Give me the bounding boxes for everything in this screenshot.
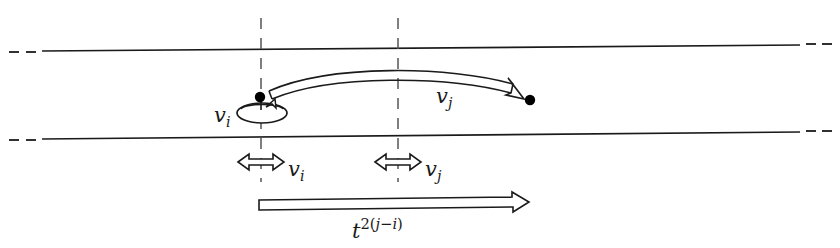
upper-band-line [42, 45, 800, 51]
measure-arrow-vj-label-base: v [425, 157, 437, 181]
self-loop-label-sub: i [226, 114, 231, 130]
arc-ribbon-lower-edge [272, 80, 511, 99]
span-arrow-group [259, 192, 529, 212]
arc-arrowhead [506, 78, 524, 99]
continuation-dashes-group [9, 44, 832, 140]
measure-arrow-vi-label: vi [288, 157, 304, 184]
figure-canvas: vi vj vi vj t2(j−i) [0, 0, 840, 248]
span-arrow-label: t2(j−i) [352, 215, 403, 243]
band-lines-group [42, 45, 800, 139]
span-arrow-shape [259, 192, 529, 212]
span-arrow-label-sup-minus: − [380, 215, 392, 232]
vertex-vi-dot [255, 92, 265, 102]
diagram-svg: vi vj vi vj t2(j−i) [0, 0, 840, 248]
measure-arrow-vi-label-base: v [288, 157, 300, 181]
arc-arrow-label-base: v [436, 84, 448, 108]
span-arrow-label-sup-pre: 2( [360, 215, 375, 232]
measure-arrow-vi-label-sub: i [300, 168, 305, 184]
measure-arrow-vj-label: vj [425, 157, 442, 184]
self-loop-label-base: v [214, 103, 226, 127]
arc-ribbon-tail-cap [269, 91, 272, 99]
lower-band-line [42, 132, 800, 139]
vertex-vj-dot [525, 95, 535, 105]
arc-arrow-label: vj [436, 84, 453, 111]
span-arrow-label-sup-post: ) [397, 215, 403, 232]
arc-arrow-vj [269, 71, 524, 99]
dashed-guides-group [261, 18, 398, 182]
self-loop-label: vi [214, 103, 230, 130]
